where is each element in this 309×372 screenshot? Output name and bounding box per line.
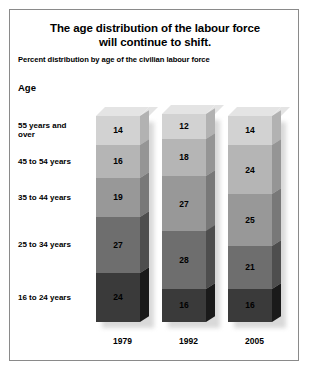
bar-segment-side-face	[206, 283, 215, 322]
bar-segment[interactable]: 21	[228, 246, 272, 289]
bar-segment-value: 25	[228, 215, 272, 225]
bar-segment[interactable]: 28	[162, 231, 206, 289]
bar-segment[interactable]: 24	[96, 273, 140, 322]
bar-column-2005[interactable]: 1424252116	[228, 116, 272, 322]
bar-segment[interactable]: 25	[228, 194, 272, 246]
bar-segment-value: 16	[96, 156, 140, 166]
bar-segment[interactable]: 16	[96, 145, 140, 178]
bar-segment-value: 21	[228, 262, 272, 272]
bar-segment-value: 27	[96, 240, 140, 250]
bar-segment-value: 16	[228, 300, 272, 310]
bar-segment-value: 14	[228, 125, 272, 135]
bar-segment-value: 24	[96, 292, 140, 302]
bar-segment[interactable]: 16	[162, 289, 206, 322]
bar-top-face	[228, 107, 272, 116]
bar-segment[interactable]: 14	[96, 116, 140, 145]
bar-segment-side-face	[272, 283, 281, 322]
bar-segment-value: 16	[162, 300, 206, 310]
bar-segment-side-face	[140, 172, 149, 217]
bar-column-1979[interactable]: 1416192724	[96, 116, 140, 322]
bar-segment-value: 24	[228, 165, 272, 175]
bar-segment-value: 12	[162, 121, 206, 131]
bar-segment[interactable]: 18	[162, 139, 206, 176]
bar-segment-side-face	[272, 188, 281, 245]
bar-segment[interactable]: 12	[162, 114, 206, 139]
bar-segment-value: 14	[96, 125, 140, 135]
bar-segment-side-face	[272, 139, 281, 194]
bar-segment[interactable]: 27	[162, 176, 206, 232]
x-axis-label-2005: 2005	[228, 336, 281, 346]
bar-segment-value: 19	[96, 192, 140, 202]
bar-top-face	[162, 105, 206, 114]
bar-column-1992[interactable]: 1218272816	[162, 114, 206, 322]
bar-segment-side-face	[206, 170, 215, 231]
bar-segment[interactable]: 19	[96, 178, 140, 217]
bar-segment-side-face	[140, 211, 149, 272]
bar-segment[interactable]: 24	[228, 145, 272, 194]
bar-top-face	[96, 107, 140, 116]
bar-segment-side-face	[272, 240, 281, 289]
bar-segment-value: 27	[162, 199, 206, 209]
bar-segment-side-face	[206, 225, 215, 289]
bar-segment[interactable]: 14	[228, 116, 272, 145]
bar-segment-value: 28	[162, 255, 206, 265]
x-axis-label-1992: 1992	[162, 336, 215, 346]
bar-segment[interactable]: 16	[228, 289, 272, 322]
x-axis-label-1979: 1979	[96, 336, 149, 346]
chart-figure: The age distribution of the labour force…	[9, 9, 299, 361]
bar-segment-side-face	[140, 267, 149, 322]
bar-segment[interactable]: 27	[96, 217, 140, 273]
bar-segment-value: 18	[162, 152, 206, 162]
plot-area: 55 years andover45 to 54 years35 to 44 y…	[10, 10, 300, 362]
bar-segment-side-face	[206, 133, 215, 176]
